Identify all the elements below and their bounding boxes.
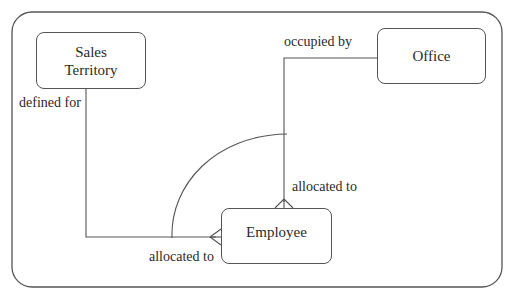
relationship-label-defined-for: defined for <box>19 95 81 111</box>
crows-foot-top-icon <box>275 199 293 208</box>
entity-sales-territory[interactable]: Sales Territory <box>36 32 146 89</box>
entity-label-line-1: Sales <box>75 43 107 61</box>
entity-label-line-2: Territory <box>64 61 117 79</box>
entity-office[interactable]: Office <box>377 28 486 84</box>
entity-employee[interactable]: Employee <box>221 208 332 264</box>
relationship-label-allocated-to-territory: allocated to <box>149 249 214 265</box>
relationship-label-allocated-to-office: allocated to <box>292 179 357 195</box>
entity-label: Employee <box>246 223 307 241</box>
crows-foot-left-icon <box>210 229 221 245</box>
entity-label: Office <box>412 47 450 65</box>
relationship-label-occupied-by: occupied by <box>284 34 352 50</box>
relationship-line-territory-employee <box>86 88 216 237</box>
